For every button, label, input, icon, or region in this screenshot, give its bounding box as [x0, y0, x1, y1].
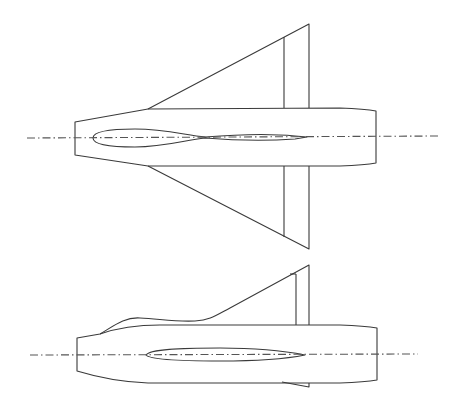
side-centerline — [30, 354, 418, 355]
plan-upper-wing — [148, 24, 309, 109]
aircraft-drawing — [0, 0, 452, 402]
drawing-canvas: Technical line drawing of a delta-wing a… — [0, 0, 452, 402]
plan-centerline — [27, 136, 440, 138]
side-view — [30, 265, 418, 387]
plan-view — [27, 24, 440, 249]
plan-lower-wing — [148, 166, 309, 249]
side-vertical-fin — [100, 265, 309, 334]
